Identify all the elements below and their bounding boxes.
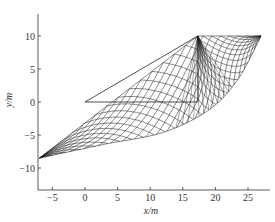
slip-line [217,36,238,103]
y-tick-label: 5 [30,64,35,75]
mesh-outer-boundary [39,36,261,158]
slip-line-chart: −50510152025−10−50510 x/m y/m [0,0,275,222]
y-tick-label: 10 [25,31,35,42]
slope-outline [85,36,198,102]
slip-line [55,89,129,155]
slope-triangle [85,36,198,102]
x-axis-title: x/m [143,205,158,216]
y-axis-title: y/m [3,93,14,108]
slip-line [134,37,197,139]
mesh-inner-boundary [39,36,261,158]
slip-line [39,138,120,158]
x-tick-label: 0 [83,192,88,203]
y-tick-label: −5 [24,130,35,141]
x-tick-label: 10 [145,192,155,203]
slip-line [197,37,238,80]
x-tick-label: −5 [47,192,58,203]
slip-line [234,36,261,85]
x-tick-label: 5 [115,192,120,203]
y-tick-label: −10 [19,163,35,174]
x-tick-label: 20 [210,192,220,203]
x-tick-label: 25 [243,192,253,203]
slip-line-mesh [39,36,261,158]
fan-ray [176,36,198,128]
y-tick-label: 0 [30,97,35,108]
x-tick-label: 15 [178,192,188,203]
tick-labels: −50510152025−10−50510 [19,31,253,204]
